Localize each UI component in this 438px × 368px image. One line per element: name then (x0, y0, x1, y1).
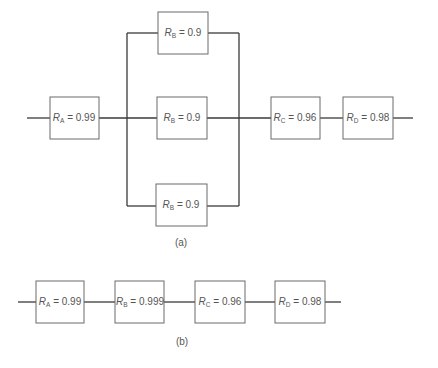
value: = 0.99 (64, 112, 95, 123)
label-a-rb-middle: RB = 0.9 (164, 112, 201, 124)
value: = 0.98 (291, 296, 322, 307)
caption-b: (b) (176, 336, 188, 347)
label-b-rc: RC = 0.96 (199, 296, 242, 308)
value: = 0.9 (174, 199, 199, 210)
label-a-rc: RC = 0.96 (274, 112, 317, 124)
label-a-ra: RA = 0.99 (53, 112, 95, 124)
label-b-rd: RD = 0.98 (279, 296, 322, 308)
label-b-rb: RB = 0.999 (116, 296, 164, 308)
value: = 0.9 (175, 112, 200, 123)
value: = 0.96 (211, 296, 242, 307)
value: = 0.99 (50, 296, 81, 307)
caption-a: (a) (175, 237, 187, 248)
label-b-ra: RA = 0.99 (39, 296, 81, 308)
label-a-rb-top: RB = 0.9 (165, 27, 202, 39)
value: = 0.999 (128, 296, 164, 307)
label-a-rb-bottom: RB = 0.9 (163, 199, 200, 211)
value: = 0.98 (359, 112, 390, 123)
value: = 0.9 (176, 27, 201, 38)
label-a-rd: RD = 0.98 (347, 112, 390, 124)
reliability-block-diagram (0, 0, 438, 368)
value: = 0.96 (286, 112, 317, 123)
